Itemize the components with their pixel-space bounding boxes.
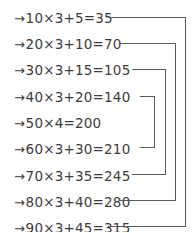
equation-text: 20×3+10=70 [26, 36, 122, 52]
equation-row: →30×3+15=105 [14, 61, 130, 79]
bracket-connector-bottom [120, 122, 176, 201]
bracket-connector-top [120, 43, 176, 122]
equation-row: →20×3+10=70 [14, 35, 122, 53]
equation-row: →80×3+40=280 [14, 193, 130, 211]
equation-text: 90×3+45=315 [26, 220, 131, 232]
equation-text: 30×3+15=105 [26, 62, 131, 78]
arrow-icon: → [14, 90, 25, 105]
arrow-icon: → [14, 116, 25, 131]
arrow-icon: → [14, 63, 25, 78]
equation-row: →40×3+20=140 [14, 88, 130, 106]
equation-text: 60×3+30=210 [26, 141, 131, 157]
bracket-connector-top [140, 96, 155, 122]
equation-row: →50×4=200 [14, 114, 101, 132]
equation-text: 50×4=200 [26, 115, 102, 131]
equation-row: →60×3+30=210 [14, 140, 130, 158]
equation-text: 70×3+35=245 [26, 168, 131, 184]
arrow-icon: → [14, 37, 25, 52]
arrow-icon: → [14, 195, 25, 210]
bracket-connector-top [132, 69, 166, 122]
equation-row: →10×3+5=35 [14, 9, 113, 27]
arrow-icon: → [14, 221, 25, 233]
arrow-icon: → [14, 11, 25, 26]
equation-text: 10×3+5=35 [26, 10, 113, 26]
equation-list-sheet: →10×3+5=35 →20×3+10=70 →30×3+15=105 →40×… [0, 0, 196, 232]
equation-text: 80×3+40=280 [26, 194, 131, 210]
arrow-icon: → [14, 169, 25, 184]
bracket-connector-bottom [140, 122, 155, 148]
bracket-connector-bottom [132, 122, 166, 175]
equation-text: 40×3+20=140 [26, 89, 131, 105]
arrow-icon: → [14, 142, 25, 157]
equation-row: →70×3+35=245 [14, 167, 130, 185]
equation-row: →90×3+45=315 [14, 219, 130, 232]
